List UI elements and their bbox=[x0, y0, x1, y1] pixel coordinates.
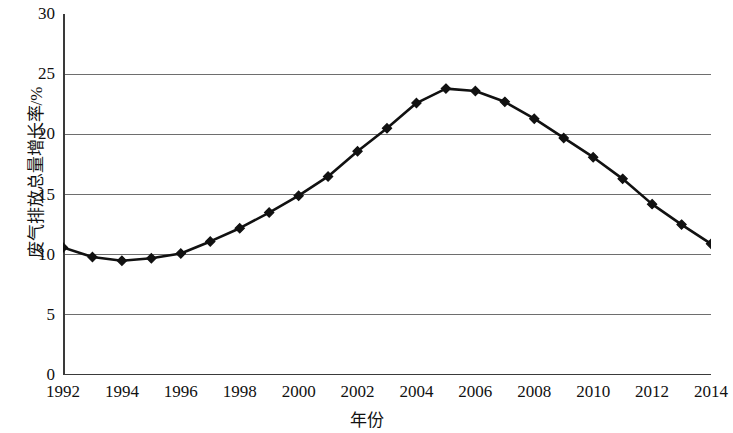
data-point-1997 bbox=[206, 237, 215, 246]
data-point-markers bbox=[63, 84, 711, 265]
x-tick-label-1992: 1992 bbox=[33, 383, 93, 400]
x-axis-title: 年份 bbox=[0, 406, 733, 431]
y-tick-label-30: 30 bbox=[21, 5, 55, 22]
data-point-1996 bbox=[176, 249, 185, 258]
chart-container: 废气排放总量增长率/% 051015202530 199219941996199… bbox=[0, 0, 733, 433]
x-tick-label-2002: 2002 bbox=[328, 383, 388, 400]
data-point-1992 bbox=[63, 243, 68, 252]
x-tick-label-2014: 2014 bbox=[681, 383, 733, 400]
data-point-1994 bbox=[117, 256, 126, 265]
y-axis-tick-labels: 051015202530 bbox=[19, 0, 55, 433]
x-tick-label-2010: 2010 bbox=[563, 383, 623, 400]
y-tick-label-10: 10 bbox=[21, 246, 55, 263]
x-tick-label-1994: 1994 bbox=[92, 383, 152, 400]
x-tick-label-1996: 1996 bbox=[151, 383, 211, 400]
data-point-1998 bbox=[235, 224, 244, 233]
y-tick-label-15: 15 bbox=[21, 186, 55, 203]
series-line-waste-gas-growth-rate bbox=[63, 89, 711, 261]
x-tick-label-2000: 2000 bbox=[269, 383, 329, 400]
x-tick-label-2004: 2004 bbox=[386, 383, 446, 400]
line-chart-svg bbox=[63, 14, 711, 375]
x-tick-label-2008: 2008 bbox=[504, 383, 564, 400]
y-tick-label-0: 0 bbox=[21, 366, 55, 383]
x-tick-label-2012: 2012 bbox=[622, 383, 682, 400]
x-tick-label-1998: 1998 bbox=[210, 383, 270, 400]
data-point-2006 bbox=[471, 86, 480, 95]
data-point-2005 bbox=[441, 84, 450, 93]
data-point-1993 bbox=[88, 252, 97, 261]
plot-area bbox=[63, 14, 711, 375]
gridlines bbox=[63, 74, 711, 315]
y-tick-label-25: 25 bbox=[21, 65, 55, 82]
x-tick-label-2006: 2006 bbox=[445, 383, 505, 400]
y-tick-label-5: 5 bbox=[21, 306, 55, 323]
y-tick-label-20: 20 bbox=[21, 125, 55, 142]
